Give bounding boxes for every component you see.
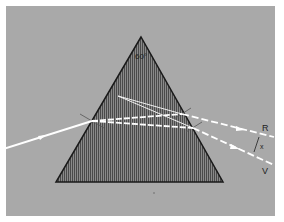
- red-label: R: [262, 123, 269, 133]
- arrow-icon: [230, 144, 240, 149]
- center-mark: [153, 192, 155, 194]
- prism-diagram: 60° R x V: [0, 0, 284, 222]
- separation-label: x: [260, 143, 264, 150]
- separation-arrow: [254, 137, 259, 152]
- arrow-icon: [38, 135, 46, 140]
- violet-label: V: [262, 166, 268, 176]
- apex-angle-label: 60°: [135, 52, 147, 61]
